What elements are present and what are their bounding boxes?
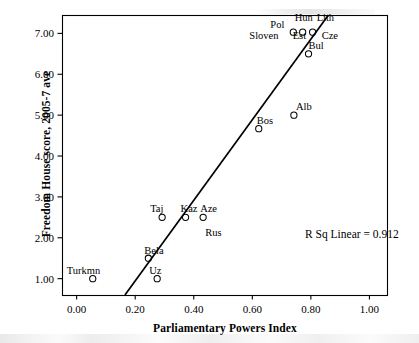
data-point-markers (90, 29, 316, 282)
data-point-label: Lith (317, 13, 335, 24)
r-squared-annotation: R Sq Linear = 0.912 (305, 228, 399, 240)
data-point-label: Aze (200, 204, 217, 215)
data-point-label: Turkmn (67, 266, 100, 277)
axis-ticks (58, 33, 370, 299)
data-point-label: Kaz (181, 204, 198, 215)
data-point-label: Hun (295, 13, 313, 24)
plot-frame (63, 16, 388, 296)
data-point-label: Bos (257, 116, 273, 127)
data-point-label: Est (293, 31, 306, 42)
scatter-plot-figure: Freedom House score, 2005-7 ave Parliame… (0, 0, 419, 343)
data-point-label: Pol (270, 20, 284, 31)
data-point-label: Taj (150, 204, 163, 215)
scan-artifact-strip (0, 334, 419, 343)
data-point-label: Alb (296, 102, 312, 113)
data-point-label: Bul (309, 41, 324, 52)
scan-smudge-top (255, 9, 375, 14)
data-point-label: Cze (322, 31, 338, 42)
data-point-label: Sloven (249, 31, 278, 42)
data-point-label: Uz (149, 266, 161, 277)
data-point-label: Bela (144, 246, 163, 257)
data-point-label: Rus (205, 228, 221, 239)
plot-area (0, 0, 419, 343)
